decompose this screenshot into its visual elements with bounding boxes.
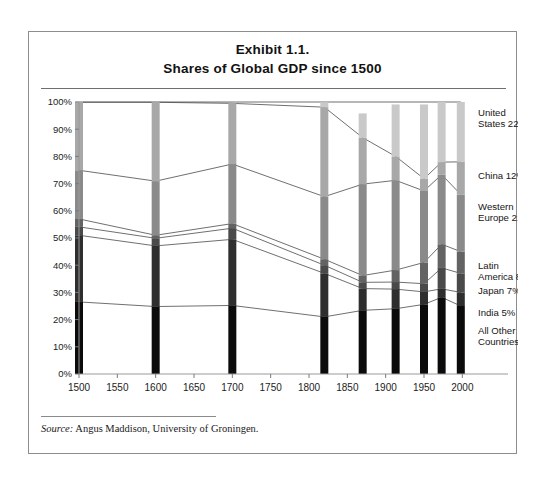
legend-label: Japan 7% [478, 285, 518, 296]
title-divider [41, 88, 506, 89]
legend-label: All Other [478, 325, 516, 336]
legend-label: Countries 25% [478, 336, 518, 347]
source-divider [41, 416, 216, 417]
source-label: Source: [41, 423, 73, 434]
x-axis-tick-label: 1700 [221, 382, 244, 393]
y-axis-tick-label: 100% [48, 96, 73, 107]
y-axis-tick-label: 20% [53, 314, 73, 325]
figure-title: Exhibit 1.1. Shares of Global GDP since … [29, 40, 516, 78]
title-line-1: Exhibit 1.1. [29, 40, 516, 59]
y-axis-tick-label: 70% [53, 178, 73, 189]
stacked-area-chart: 0%10%20%30%40%50%60%70%80%90%100%1500155… [29, 94, 518, 414]
legend-label: Western [478, 201, 514, 212]
x-axis-tick-label: 1950 [413, 382, 436, 393]
y-axis-tick-label: 10% [53, 341, 73, 352]
x-axis-tick-label: 2000 [451, 382, 474, 393]
title-line-2: Shares of Global GDP since 1500 [29, 59, 516, 78]
x-axis-tick-label: 1900 [375, 382, 398, 393]
source-note: Source: Angus Maddison, University of Gr… [41, 423, 258, 434]
legend-label: Europe 21% [478, 212, 518, 223]
legend-label: America 8% [478, 271, 518, 282]
legend-label: United [478, 107, 506, 118]
x-axis-tick-label: 1550 [106, 382, 129, 393]
x-axis-tick-label: 1850 [336, 382, 359, 393]
x-axis-tick-label: 1500 [68, 382, 91, 393]
y-axis-tick-label: 80% [53, 151, 73, 162]
chart-plot-area: 0%10%20%30%40%50%60%70%80%90%100%1500155… [29, 94, 518, 414]
legend-label: China 12% [478, 170, 518, 181]
legend-label: Latin [478, 260, 499, 271]
y-axis-tick-label: 90% [53, 124, 73, 135]
exhibit-figure: Exhibit 1.1. Shares of Global GDP since … [28, 31, 517, 454]
x-axis-tick-label: 1600 [145, 382, 168, 393]
y-axis-tick-label: 40% [53, 260, 73, 271]
y-axis-tick-label: 60% [53, 205, 73, 216]
y-axis-tick-label: 30% [53, 287, 73, 298]
legend-label: India 5% [478, 307, 516, 318]
y-axis-tick-label: 0% [58, 368, 72, 379]
x-axis-tick-label: 1650 [183, 382, 206, 393]
source-text: Angus Maddison, University of Groningen. [73, 423, 258, 434]
y-axis-tick-label: 50% [53, 232, 73, 243]
legend-label: States 22% [478, 118, 518, 129]
x-axis-tick-label: 1750 [260, 382, 283, 393]
x-axis-tick-label: 1800 [298, 382, 321, 393]
